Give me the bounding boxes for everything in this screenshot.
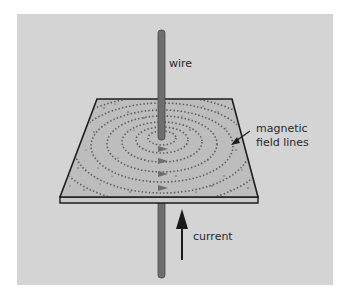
current-label: current	[193, 230, 233, 243]
field-lines-label-line2: field lines	[256, 136, 309, 149]
wire-upper	[158, 30, 165, 140]
field-lines-label-line1: magnetic	[256, 122, 308, 135]
wire-lower	[158, 200, 165, 278]
magnetic-field-diagram: wire magnetic field lines current	[0, 0, 349, 300]
wire-label: wire	[169, 57, 192, 70]
board-edge	[60, 197, 258, 203]
